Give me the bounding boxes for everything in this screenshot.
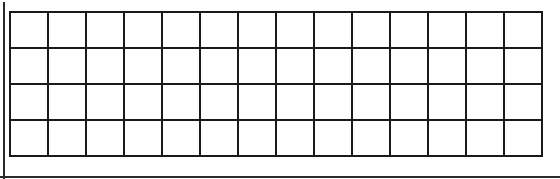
grid-cell xyxy=(86,120,124,156)
grid-cell xyxy=(238,120,276,156)
grid-cell xyxy=(352,12,390,48)
grid-cell xyxy=(504,120,542,156)
grid-cell xyxy=(200,12,238,48)
grid-cell xyxy=(504,48,542,84)
grid-cell xyxy=(200,84,238,120)
grid-cell xyxy=(48,120,86,156)
grid-cell xyxy=(10,48,48,84)
grid-cell xyxy=(200,48,238,84)
grid-cell xyxy=(10,84,48,120)
grid-cell xyxy=(428,120,466,156)
grid-cell xyxy=(352,48,390,84)
grid-row xyxy=(10,12,542,48)
grid-cell xyxy=(238,84,276,120)
grid-cell xyxy=(314,12,352,48)
grid-cell xyxy=(10,120,48,156)
grid-cell xyxy=(86,48,124,84)
grid-cell xyxy=(352,84,390,120)
grid-cell xyxy=(390,84,428,120)
left-border-line xyxy=(3,2,5,179)
grid-cell xyxy=(200,120,238,156)
grid-cell xyxy=(314,84,352,120)
grid-cell xyxy=(276,12,314,48)
grid-cell xyxy=(504,12,542,48)
grid-cell xyxy=(466,12,504,48)
grid-cell xyxy=(48,48,86,84)
grid-cell xyxy=(162,12,200,48)
grid-cell xyxy=(466,120,504,156)
grid-cell xyxy=(238,12,276,48)
grid-cell xyxy=(428,48,466,84)
grid-row xyxy=(10,84,542,120)
grid-cell xyxy=(390,120,428,156)
grid-cell xyxy=(48,84,86,120)
grid-cell xyxy=(162,84,200,120)
grid-cell xyxy=(466,84,504,120)
bottom-border-line xyxy=(0,176,560,178)
grid-cell xyxy=(276,48,314,84)
grid-cell xyxy=(238,48,276,84)
grid-cell xyxy=(276,120,314,156)
grid-cell xyxy=(390,48,428,84)
grid-cell xyxy=(314,120,352,156)
grid-row xyxy=(10,120,542,156)
grid-row xyxy=(10,48,542,84)
grid-cell xyxy=(352,120,390,156)
grid-cell xyxy=(466,48,504,84)
grid-cell xyxy=(10,12,48,48)
empty-grid xyxy=(9,11,543,157)
grid-cell xyxy=(428,12,466,48)
grid-cell xyxy=(124,48,162,84)
grid-cell xyxy=(86,12,124,48)
grid-cell xyxy=(162,48,200,84)
grid-cell xyxy=(86,84,124,120)
grid-cell xyxy=(276,84,314,120)
grid-cell xyxy=(124,12,162,48)
grid-cell xyxy=(162,120,200,156)
grid-cell xyxy=(124,120,162,156)
grid-cell xyxy=(124,84,162,120)
grid-cell xyxy=(504,84,542,120)
grid-cell xyxy=(314,48,352,84)
grid-cell xyxy=(48,12,86,48)
grid-cell xyxy=(428,84,466,120)
grid-cell xyxy=(390,12,428,48)
